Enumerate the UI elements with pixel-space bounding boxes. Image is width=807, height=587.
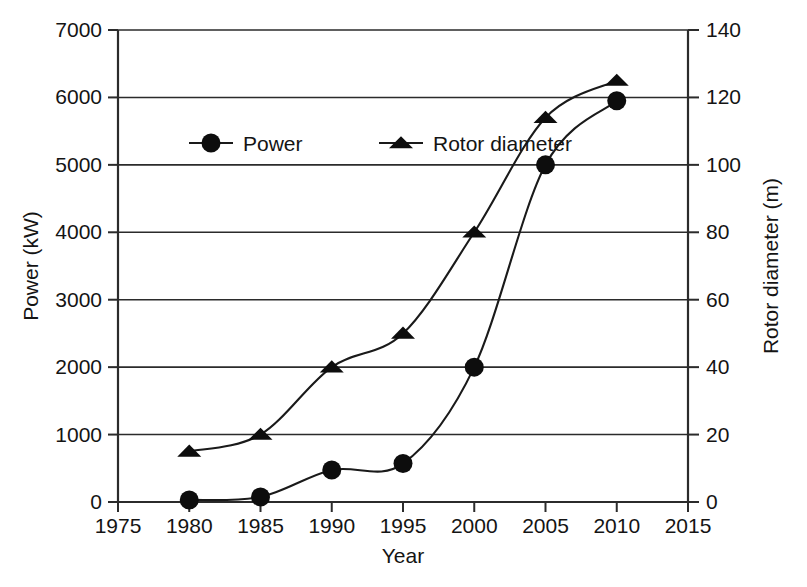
left-axis-tick-label: 5000: [55, 153, 102, 176]
left-axis-tick-label: 6000: [55, 85, 102, 108]
left-axis-tick-label: 0: [90, 490, 102, 513]
dual-axis-line-chart: 01000200030004000500060007000 0204060801…: [0, 0, 807, 587]
x-axis-tick-label: 2015: [665, 514, 712, 537]
data-point-power-1985: [251, 487, 270, 506]
right-axis-tick-label: 20: [706, 423, 729, 446]
right-axis-tick-label: 60: [706, 288, 729, 311]
x-axis-tick-label: 1985: [237, 514, 284, 537]
y2-axis-title: Rotor diameter (m): [759, 178, 782, 354]
y-axis-title: Power (kW): [19, 211, 42, 321]
x-axis-tick-label: 2000: [451, 514, 498, 537]
chart-container: 01000200030004000500060007000 0204060801…: [0, 0, 807, 587]
right-axis-tick-label: 0: [706, 490, 718, 513]
legend-label-rotor-diameter: Rotor diameter: [433, 132, 572, 155]
left-axis-tick-label: 3000: [55, 288, 102, 311]
data-point-power-2005: [536, 155, 555, 174]
x-axis-tick-label: 1995: [380, 514, 427, 537]
x-axis-tick-label: 1990: [308, 514, 355, 537]
data-point-power-2010: [607, 91, 626, 110]
right-axis-tick-label: 120: [706, 85, 741, 108]
x-axis-tick-label: 2005: [522, 514, 569, 537]
left-axis-tick-label: 7000: [55, 18, 102, 41]
x-axis-tick-labels: 197519801985199019952000200520102015: [95, 514, 712, 537]
data-point-power-2000: [465, 358, 484, 377]
legend-label-power: Power: [243, 132, 303, 155]
x-axis-title: Year: [382, 544, 424, 567]
right-axis-tick-label: 40: [706, 355, 729, 378]
data-point-power-1990: [322, 460, 341, 479]
x-axis-tick-label: 1975: [95, 514, 142, 537]
legend-circle-marker-icon: [202, 134, 221, 153]
right-axis-tick-label: 100: [706, 153, 741, 176]
x-axis-tick-label: 1980: [166, 514, 213, 537]
chart-background: [0, 0, 807, 587]
left-axis-tick-label: 1000: [55, 423, 102, 446]
left-axis-tick-label: 4000: [55, 220, 102, 243]
right-axis-tick-label: 80: [706, 220, 729, 243]
data-point-power-1995: [394, 454, 413, 473]
x-axis-tick-label: 2010: [593, 514, 640, 537]
left-axis-tick-label: 2000: [55, 355, 102, 378]
data-point-power-1980: [180, 490, 199, 509]
right-axis-tick-label: 140: [706, 18, 741, 41]
